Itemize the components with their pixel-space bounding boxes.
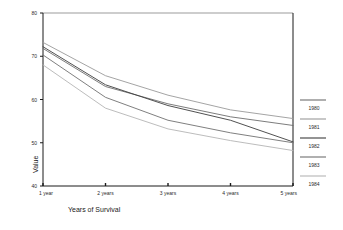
- legend-label-1984: 1984: [308, 181, 319, 187]
- y-tick-label: 70: [31, 53, 37, 59]
- y-tick-label: 50: [31, 140, 37, 146]
- y-tick-label: 60: [31, 97, 37, 103]
- legend-label-1981: 1981: [308, 124, 319, 130]
- chart-canvas: 4050607080 1 year2 years3 years4 years5 …: [0, 0, 343, 230]
- y-tick-label: 40: [31, 183, 37, 189]
- x-tick-label: 1 year: [39, 190, 53, 196]
- x-tick-label: 5 years: [281, 190, 298, 196]
- y-tick-label: 80: [31, 10, 37, 16]
- x-tick-label: 4 years: [222, 190, 239, 196]
- x-axis-title: Years of Survival: [68, 206, 121, 213]
- x-tick-label: 3 years: [160, 190, 177, 196]
- legend-label-1983: 1983: [308, 162, 319, 168]
- survival-line-chart: 4050607080 1 year2 years3 years4 years5 …: [0, 0, 343, 230]
- y-axis-title: Value: [32, 156, 39, 173]
- legend-label-1980: 1980: [308, 105, 319, 111]
- x-tick-label: 2 years: [97, 190, 114, 196]
- legend-label-1982: 1982: [308, 143, 319, 149]
